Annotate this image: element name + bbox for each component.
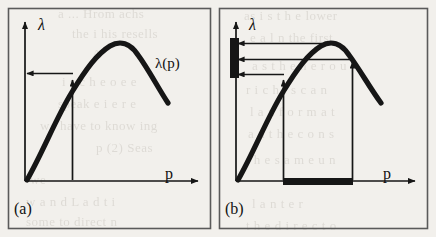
panel-a-tag: (a) [14, 200, 32, 218]
panel-a-p-axis-label: p [165, 165, 173, 183]
panel-b-p-axis-label: p [383, 165, 391, 183]
panel-b-lambda-interval-bar [230, 38, 239, 78]
panel-b-frame [220, 9, 428, 229]
panel-a-lambda-axis-label: λ [38, 16, 45, 34]
panel-b-throughput-curve [238, 43, 381, 180]
figure-svg [0, 0, 436, 237]
panel-b-lambda-axis-label: λ [249, 16, 256, 34]
panel-a-curve-label: λ(p) [155, 55, 180, 72]
panel-a-frame [9, 9, 211, 229]
panel-b-p-interval-bar [283, 178, 353, 185]
panel-a-throughput-curve [27, 43, 168, 180]
figure-container: a ... Hrom achsthe i his resellsAi s c h… [0, 0, 436, 237]
panel-b-tag: (b) [225, 200, 244, 218]
